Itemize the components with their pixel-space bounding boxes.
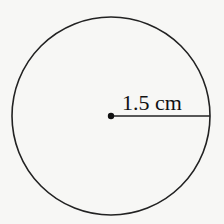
radius-label: 1.5 cm [122, 90, 182, 115]
center-point [108, 113, 114, 119]
circle-diagram: 1.5 cm [0, 0, 224, 224]
